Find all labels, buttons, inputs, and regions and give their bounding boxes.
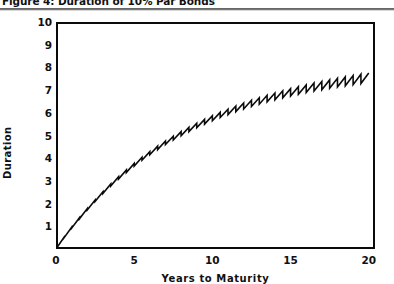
y-tick-label: 2 bbox=[32, 199, 52, 209]
x-tick-label: 0 bbox=[41, 254, 71, 266]
duration-chart: 12345678910 05101520 Duration Years to M… bbox=[0, 12, 394, 284]
y-tick-label: 7 bbox=[32, 85, 52, 95]
figure-caption: Figure 4: Duration of 10% Par Bonds bbox=[2, 0, 215, 7]
y-tick-label: 6 bbox=[32, 108, 52, 118]
figure-caption-clip: Figure 4: Duration of 10% Par Bonds bbox=[0, 0, 394, 7]
y-axis-label: Duration bbox=[2, 108, 26, 198]
y-tick-label: 10 bbox=[32, 17, 52, 27]
horizontal-rule-shadow bbox=[0, 10, 394, 11]
y-tick-label: 5 bbox=[32, 131, 52, 141]
x-axis-label: Years to Maturity bbox=[56, 273, 375, 284]
x-tick-label: 10 bbox=[197, 254, 227, 266]
x-tick-label: 5 bbox=[119, 254, 149, 266]
y-tick-label: 9 bbox=[32, 40, 52, 50]
y-tick-label: 8 bbox=[32, 62, 52, 72]
y-tick-label: 3 bbox=[32, 176, 52, 186]
duration-curve bbox=[56, 22, 375, 249]
y-tick-label: 1 bbox=[32, 221, 52, 231]
x-tick-label: 15 bbox=[276, 254, 306, 266]
y-tick-label: 4 bbox=[32, 153, 52, 163]
y-axis-ticks: 12345678910 bbox=[24, 12, 52, 262]
x-tick-label: 20 bbox=[354, 254, 384, 266]
figure-page: Figure 4: Duration of 10% Par Bonds 1234… bbox=[0, 0, 394, 284]
x-axis-ticks: 05101520 bbox=[0, 254, 394, 270]
